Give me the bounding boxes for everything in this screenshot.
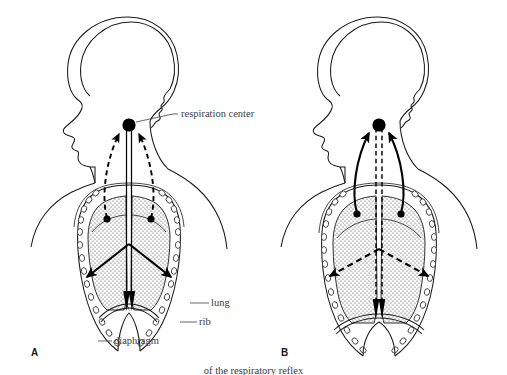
- panel-letter-a: A: [31, 347, 38, 358]
- body-outline-a: [31, 17, 227, 249]
- lung-receptor-left-b: [353, 210, 360, 217]
- efferent-pathway-a: [127, 128, 132, 292]
- body-outline-b: [281, 17, 477, 249]
- respiration-center-dot-a: [122, 118, 135, 131]
- lung-receptor-right-a: [147, 215, 154, 222]
- figure-caption: of the respiratory reflex: [0, 365, 507, 375]
- respiration-center-dot-b: [372, 118, 385, 131]
- diaphragm-b: [334, 314, 424, 356]
- panel-letter-b: B: [281, 347, 288, 358]
- lung-receptor-left-a: [103, 215, 110, 222]
- rib-label: rib: [199, 316, 211, 327]
- lungs-b: [333, 196, 425, 323]
- diaphragm-label: diaphragm: [114, 335, 159, 346]
- lung-receptor-right-b: [397, 210, 404, 217]
- lung-label: lung: [211, 297, 230, 308]
- panel-b: B: [281, 17, 477, 358]
- panel-a: respiration center lung rib diaphragm A: [31, 17, 255, 358]
- respiration-center-label: respiration center: [181, 108, 255, 119]
